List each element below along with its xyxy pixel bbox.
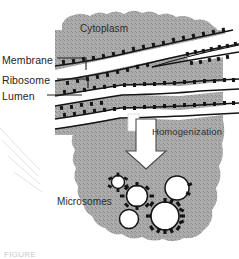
microsome-bottom-right	[146, 198, 185, 234]
label-membrane: Membrane	[2, 54, 53, 66]
label-homogenization: Homogenization	[152, 126, 222, 137]
label-lumen: Lumen	[2, 90, 35, 102]
label-cytoplasm: Cytoplasm	[80, 23, 128, 34]
scan-artifact-strokes	[0, 128, 42, 192]
label-ribosome: Ribosome	[2, 74, 50, 86]
figure-rough-er-homogenization: Membrane Ribosome Lumen Cytoplasm Homoge…	[0, 0, 239, 259]
microsome-bottom-left-smooth	[120, 210, 139, 229]
figure-caption: FIGURE	[4, 250, 36, 259]
label-microsomes: Microsomes	[57, 196, 112, 207]
